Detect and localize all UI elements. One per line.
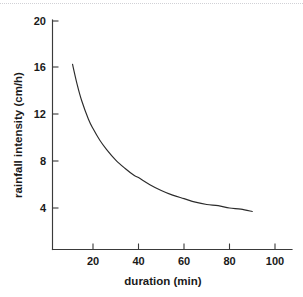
x-tick-label-80: 80: [223, 255, 235, 267]
x-tick-labels: 20 40 60 80 100: [87, 255, 284, 267]
y-axis-title: rainfall intensity (cm/h): [12, 72, 24, 198]
y-tick-marks: [53, 21, 59, 208]
y-tick-label-20: 20: [34, 15, 46, 27]
y-tick-labels: 4 8 12 16 20: [34, 15, 47, 214]
x-tick-label-60: 60: [178, 255, 190, 267]
rainfall-intensity-curve: [73, 64, 253, 211]
x-axis-title: duration (min): [124, 275, 201, 287]
axes-group: [53, 20, 293, 250]
x-tick-marks: [93, 244, 275, 250]
x-tick-label-100: 100: [266, 255, 284, 267]
x-tick-label-40: 40: [132, 255, 144, 267]
chart-figure: 4 8 12 16 20 20 40 60 80 100 duration (m…: [0, 0, 303, 297]
y-tick-label-16: 16: [34, 61, 46, 73]
y-tick-label-8: 8: [40, 155, 46, 167]
rainfall-intensity-line-chart: 4 8 12 16 20 20 40 60 80 100 duration (m…: [0, 0, 303, 297]
y-tick-label-4: 4: [40, 202, 47, 214]
y-tick-label-12: 12: [34, 108, 46, 120]
x-tick-label-20: 20: [87, 255, 99, 267]
